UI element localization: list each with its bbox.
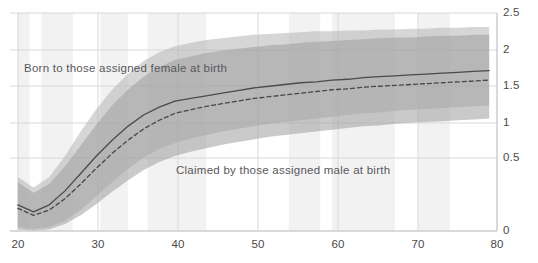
annotation-male-series: Claimed by those assigned male at birth <box>176 164 390 176</box>
y-axis-tick-label: 0.5 <box>503 151 520 163</box>
y-axis-tick-label: 2.5 <box>503 6 520 18</box>
x-axis-tick-label: 50 <box>251 238 264 250</box>
chart-canvas <box>0 0 538 263</box>
x-axis-tick-label: 80 <box>490 238 503 250</box>
y-axis-tick-label: 0 <box>503 224 510 236</box>
x-axis-tick-label: 30 <box>91 238 104 250</box>
x-axis-tick-label: 40 <box>171 238 184 250</box>
chart-figure: 2.521.510.50 20304050607080 Born to thos… <box>0 0 538 263</box>
y-axis-tick-label: 1 <box>503 116 510 128</box>
x-axis-tick-label: 70 <box>411 238 424 250</box>
x-axis-tick-label: 60 <box>331 238 344 250</box>
x-axis-tick-label: 20 <box>11 238 24 250</box>
y-axis-tick-label: 1.5 <box>503 79 520 91</box>
annotation-female-series: Born to those assigned female at birth <box>24 62 227 74</box>
y-axis-tick-label: 2 <box>503 43 510 55</box>
